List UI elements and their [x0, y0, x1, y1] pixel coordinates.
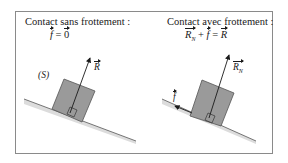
solid-label: (S) [38, 70, 49, 80]
incline-diagrams [0, 0, 288, 163]
right-block [190, 80, 234, 126]
right-normal-reaction-label: RN [233, 62, 243, 74]
friction-label: f [173, 92, 176, 102]
left-reaction-label: R [94, 62, 100, 72]
